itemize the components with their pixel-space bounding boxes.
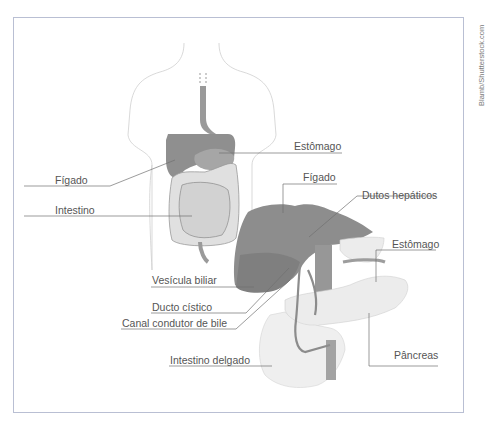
label-intestino: Intestino [55,204,95,216]
esophagus [200,73,216,134]
label-ducto-cistico: Ducto cístico [152,301,212,313]
label-estomago-top: Estômago [294,140,341,152]
small-intestine-coils [179,182,230,237]
label-pancreas: Pâncreas [394,349,438,361]
label-intestino-delgado: Intestino delgado [170,354,250,366]
label-dutos-hepaticos: Dutos hepáticos [362,189,437,201]
large-stomach [340,237,384,262]
pancreas [285,276,408,326]
label-estomago-right: Estômago [392,238,439,250]
label-figado-right: Fígado [303,171,336,183]
label-figado-left: Fígado [55,174,88,186]
label-canal-condutor: Canal condutor de bile [122,317,227,329]
label-vesicula-biliar: Vesícula biliar [152,274,217,286]
